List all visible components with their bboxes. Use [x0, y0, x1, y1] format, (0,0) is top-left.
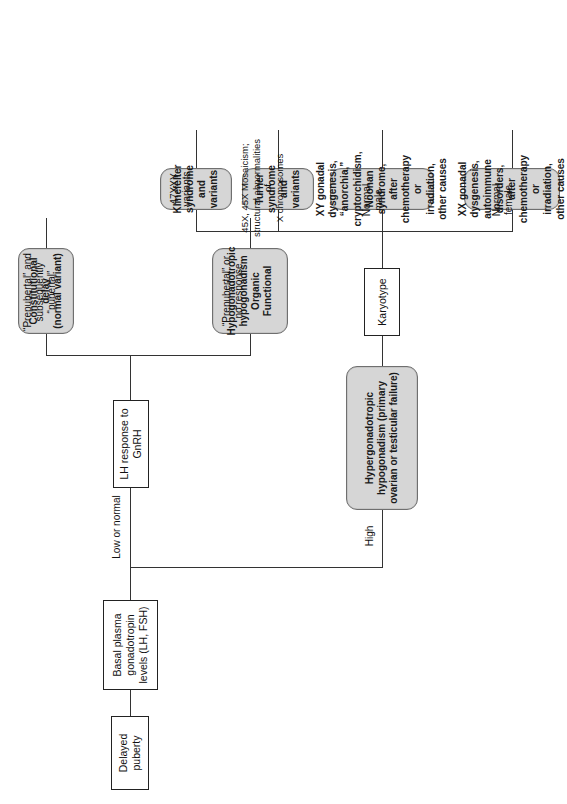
edge-label-prepubertal-no-response: “Prepubertal” or no response [221, 248, 245, 334]
edge-label-normal-female: Normal female [491, 170, 515, 230]
connector-lh-split-vertical [130, 355, 250, 356]
connector-hyper-to-karyotype [382, 336, 383, 366]
edge-label-prepubertal-subsequently-pubertal: “Prepubertal” and subsequently “pubertal… [22, 246, 59, 338]
edge-label-low-or-normal: Low or normal [111, 494, 123, 560]
connector-lh-split-vertical-up [46, 355, 130, 356]
edge-label-45x-mosaicism: 45X, 45X Mosaicism; structural abnormali… [239, 138, 285, 238]
edge-label-normal-male: Normal male [361, 174, 385, 226]
connector-basal-stem [130, 568, 131, 600]
connector-basal-split-vertical [130, 567, 382, 568]
connector-to-hypogonadotropic [250, 334, 251, 356]
edge-label-47xxy-variants: 47XXY variants [169, 166, 193, 212]
connector-high [382, 510, 383, 568]
connector-lh-out [130, 356, 131, 400]
node-basal-gonadotropin[interactable]: Basal plasma gonadotropin levels (LH, FS… [103, 600, 158, 690]
connector-low-or-normal [130, 488, 131, 568]
node-hypergonadotropic-hypogonadism[interactable]: Hypergonadotropic hypogonadism (primary … [346, 366, 418, 510]
node-lh-response-gnrh[interactable]: LH response to GnRH [113, 400, 149, 488]
connector-root-to-basal [130, 690, 131, 716]
node-karyotype[interactable]: Karyotype [364, 268, 400, 336]
node-delayed-puberty[interactable]: Delayed puberty [111, 716, 149, 790]
connector-klinefelter-in [196, 130, 197, 168]
edge-label-high: High [364, 518, 376, 554]
connector-constitutional-delay-in [46, 218, 47, 248]
connector-karyotype-out [382, 232, 383, 268]
